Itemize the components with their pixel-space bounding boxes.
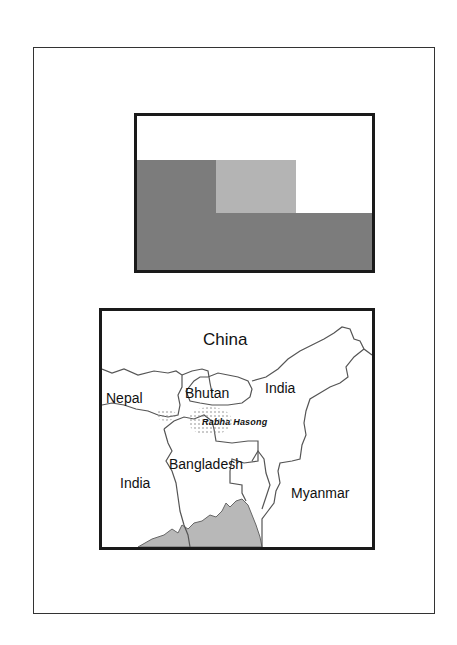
map-panel: China Nepal Bhutan India Rabha Hasong Ba… [99,308,375,550]
label-india-northeast: India [265,381,295,395]
dark-gray-region [137,160,217,273]
label-india-west: India [120,476,150,490]
label-bangladesh: Bangladesh [169,457,243,471]
dark-gray-band [216,213,375,273]
label-rabha-hasong: Rabha Hasong [202,418,267,427]
label-nepal: Nepal [106,391,143,405]
shaded-block-panel [134,113,375,273]
label-china: China [203,331,247,348]
label-myanmar: Myanmar [291,486,349,500]
light-gray-region [216,160,296,214]
label-bhutan: Bhutan [185,386,229,400]
